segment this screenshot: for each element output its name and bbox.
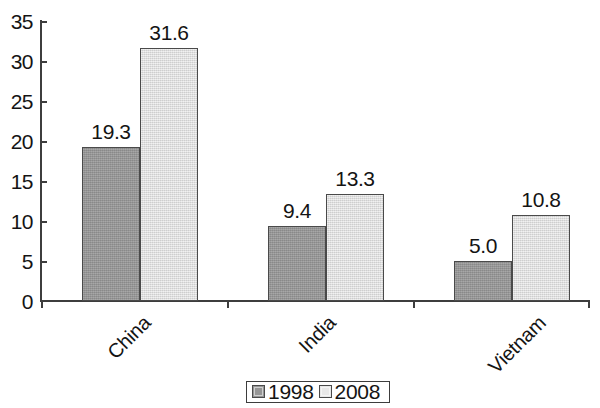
legend-swatch-1998-icon	[252, 385, 265, 398]
legend-item-1998: 1998	[252, 381, 318, 402]
bar-china-2008	[140, 48, 198, 301]
x-tick-mark	[41, 300, 43, 308]
y-tick-mark	[40, 261, 47, 263]
y-tick-label: 30	[0, 51, 33, 72]
y-tick-mark	[40, 221, 47, 223]
bar-india-1998	[268, 226, 326, 301]
y-tick-label: 15	[0, 171, 33, 192]
y-tick-label: 0	[0, 291, 33, 312]
y-tick-mark	[40, 21, 47, 23]
bar-india-2008	[326, 194, 384, 301]
x-tick-mark	[227, 300, 229, 308]
y-tick-mark	[40, 181, 47, 183]
legend-label-1998: 1998	[268, 381, 314, 402]
chart-legend: 1998 2008	[246, 381, 390, 403]
bar-china-1998	[82, 147, 140, 301]
y-tick-mark	[40, 101, 47, 103]
y-tick-mark	[40, 141, 47, 143]
y-tick-label: 5	[0, 251, 33, 272]
bar-chart: 35 30 25 20 15 10 5 0 19.3 31.6 9.4	[0, 0, 600, 408]
bar-value-china-2008: 31.6	[134, 22, 204, 43]
legend-swatch-2008-icon	[319, 385, 332, 398]
legend-label-2008: 2008	[335, 381, 381, 402]
y-tick-label: 20	[0, 131, 33, 152]
y-tick-label: 10	[0, 211, 33, 232]
legend-item-2008: 2008	[318, 381, 385, 402]
bar-value-india-2008: 13.3	[320, 168, 390, 189]
bar-value-china-1998: 19.3	[76, 121, 146, 142]
y-tick-mark	[40, 61, 47, 63]
bar-vietnam-2008	[512, 215, 570, 301]
bar-value-vietnam-2008: 10.8	[506, 189, 576, 210]
x-tick-mark	[413, 300, 415, 308]
bar-vietnam-1998	[454, 261, 512, 301]
x-tick-mark	[588, 300, 590, 308]
y-tick-label: 25	[0, 91, 33, 112]
bar-value-india-1998: 9.4	[262, 200, 332, 221]
y-tick-label: 35	[0, 11, 33, 32]
bar-value-vietnam-1998: 5.0	[448, 235, 518, 256]
plot-area: 35 30 25 20 15 10 5 0 19.3 31.6 9.4	[0, 0, 600, 408]
